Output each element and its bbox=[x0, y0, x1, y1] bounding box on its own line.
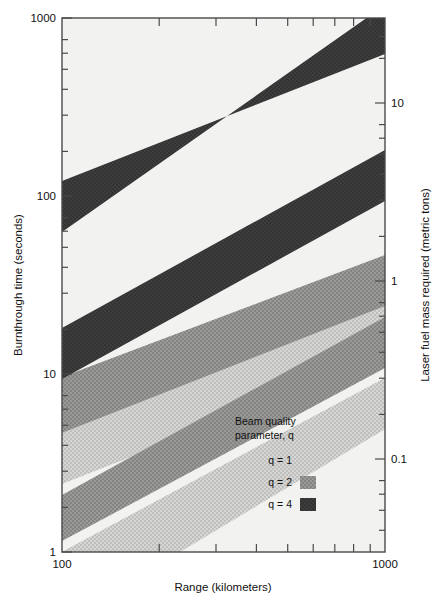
y-tick-label-10: 10 bbox=[43, 368, 56, 380]
legend-swatch-q2 bbox=[300, 476, 316, 489]
y-axis-left-title: Burnthrough time (seconds) bbox=[12, 214, 24, 356]
y2-tick-label-1: 1 bbox=[391, 275, 397, 287]
x-tick-label-1000: 1000 bbox=[372, 558, 398, 570]
y-tick-label-1: 1 bbox=[50, 546, 56, 558]
y-axis-right-title: Laser fuel mass required (metric tons) bbox=[419, 188, 431, 382]
legend-title-line2: parameter, q bbox=[235, 429, 294, 441]
figure-container: 1000 100 10 1 10 1 0.1 bbox=[0, 0, 441, 604]
x-tick-label-100: 100 bbox=[52, 558, 71, 570]
legend-title-line1: Beam quality bbox=[235, 415, 296, 427]
y2-tick-label-10: 10 bbox=[391, 97, 404, 109]
legend-swatch-q4 bbox=[300, 498, 316, 511]
y-tick-label-100: 100 bbox=[37, 190, 56, 202]
x-axis-title: Range (kilometers) bbox=[174, 581, 271, 593]
legend-label-q4: q = 4 bbox=[268, 498, 292, 510]
y2-tick-label-0point1: 0.1 bbox=[391, 453, 407, 465]
y-tick-label-1000: 1000 bbox=[30, 12, 56, 24]
burnthrough-time-chart: 1000 100 10 1 10 1 0.1 bbox=[0, 0, 441, 604]
legend-label-q1: q = 1 bbox=[268, 454, 292, 466]
legend-label-q2: q = 2 bbox=[268, 476, 292, 488]
legend-swatch-q1 bbox=[300, 454, 316, 467]
